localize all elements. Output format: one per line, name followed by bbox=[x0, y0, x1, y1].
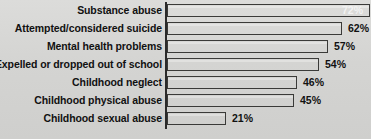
bar-childhood-neglect bbox=[167, 76, 297, 89]
category-label: Expelled or dropped out of school bbox=[0, 58, 162, 71]
value-label-substance-abuse: 72% bbox=[342, 4, 363, 17]
bar-sheen bbox=[168, 6, 369, 8]
bar-substance-abuse bbox=[167, 4, 370, 17]
bar-row: Childhood physical abuse 45% bbox=[0, 94, 371, 112]
value-label-mental-health-problems: 57% bbox=[334, 40, 355, 53]
category-label: Childhood sexual abuse bbox=[43, 112, 162, 125]
bar-row: Expelled or dropped out of school 54% bbox=[0, 58, 371, 76]
category-label: Childhood physical abuse bbox=[34, 94, 162, 107]
category-label: Substance abuse bbox=[77, 4, 162, 17]
value-label-childhood-sexual-abuse: 21% bbox=[232, 112, 253, 125]
bar-sheen bbox=[168, 24, 341, 26]
bar-mental-health-problems bbox=[167, 40, 328, 53]
bar-sheen bbox=[168, 42, 327, 44]
bar-row: Attempted/considered suicide 62% bbox=[0, 22, 371, 40]
bar-childhood-sexual-abuse bbox=[167, 112, 226, 125]
bar-row: Childhood sexual abuse 21% bbox=[0, 112, 371, 130]
category-label: Mental health problems bbox=[47, 40, 162, 53]
bar-attempted-considered-suicide bbox=[167, 22, 342, 35]
bar-sheen bbox=[168, 96, 293, 98]
bar-chart: Substance abuse 72% Attempted/considered… bbox=[0, 0, 371, 139]
bar-sheen bbox=[168, 114, 225, 116]
bar-childhood-physical-abuse bbox=[167, 94, 294, 107]
value-label-attempted-considered-suicide: 62% bbox=[348, 22, 369, 35]
value-label-expelled-or-dropped-out-of-school: 54% bbox=[325, 58, 346, 71]
category-label: Childhood neglect bbox=[72, 76, 162, 89]
value-label-childhood-neglect: 46% bbox=[303, 76, 324, 89]
bar-expelled-or-dropped-out-of-school bbox=[167, 58, 319, 71]
plot-area: Substance abuse 72% Attempted/considered… bbox=[0, 0, 371, 139]
bar-row: Mental health problems 57% bbox=[0, 40, 371, 58]
category-label: Attempted/considered suicide bbox=[15, 22, 162, 35]
value-label-childhood-physical-abuse: 45% bbox=[300, 94, 321, 107]
bar-sheen bbox=[168, 78, 296, 80]
bar-row: Childhood neglect 46% bbox=[0, 76, 371, 94]
bar-row: Substance abuse 72% bbox=[0, 4, 371, 22]
bar-sheen bbox=[168, 60, 318, 62]
